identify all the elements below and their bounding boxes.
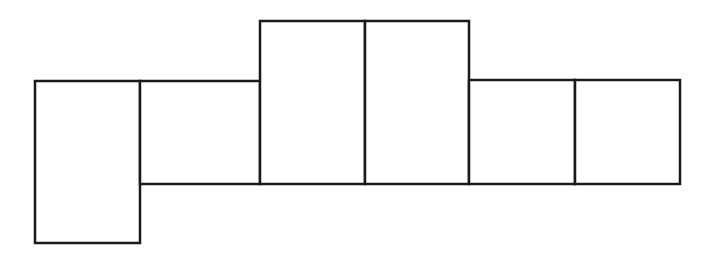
rectangle-net-diagram (0, 0, 713, 254)
net-face-e (469, 80, 575, 184)
net-face-a (35, 81, 140, 243)
net-face-c (260, 21, 365, 184)
net-face-f (575, 80, 680, 184)
net-face-d (365, 21, 469, 184)
net-face-b (140, 81, 260, 184)
